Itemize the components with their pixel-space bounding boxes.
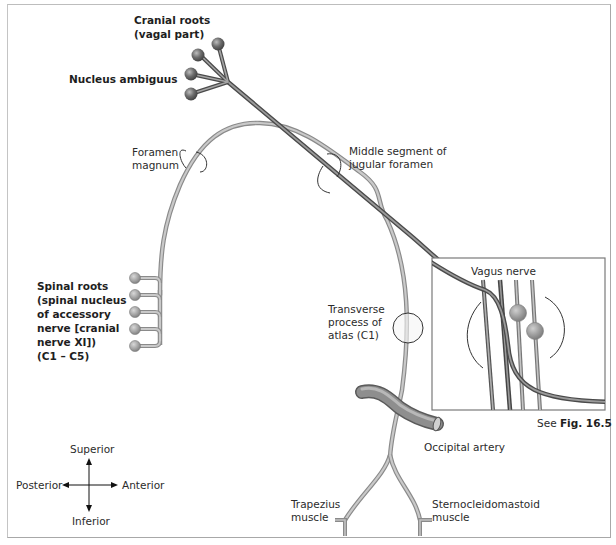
spinal-root-ball [130, 273, 141, 284]
arrow-up-icon [86, 458, 92, 465]
nucleus-ambiguus-cell [192, 49, 205, 62]
inferior-label: Inferior [72, 515, 111, 527]
anterior-label: Anterior [122, 479, 165, 491]
transverse-process-label: Transverse process of atlas (C1) [327, 303, 388, 341]
arrow-left-icon [62, 482, 69, 488]
sternocleidomastoid-label: Sternocleidomastoid muscle [432, 498, 543, 523]
spinal-root-ball [130, 324, 141, 335]
transverse-process-circle [393, 313, 423, 343]
vagus-nerve-inset [420, 255, 610, 410]
arrow-right-icon [111, 482, 118, 488]
orientation-compass [62, 458, 118, 512]
nucleus-ambiguus-label: Nucleus ambiguus [69, 73, 177, 85]
vagus-ganglion [510, 305, 527, 322]
spinal-root-ball [130, 307, 141, 318]
spinal-roots-label: Spinal roots (spinal nucleus of accessor… [37, 280, 130, 362]
occipital-artery-label: Occipital artery [424, 441, 505, 453]
accessory-nerve-diagram: Cranial roots (vagal part) Nucleus ambig… [0, 0, 616, 545]
foramen-magnum-label: Foramen magnum [132, 146, 182, 171]
arrow-down-icon [86, 505, 92, 512]
jugular-foramen-label: Middle segment of jugular foramen [348, 145, 450, 170]
nucleus-ambiguus-cell [185, 68, 198, 81]
vagus-ganglion [527, 323, 544, 340]
spinal-root-ball [130, 290, 141, 301]
posterior-label: Posterior [16, 479, 63, 491]
superior-label: Superior [70, 443, 115, 455]
nucleus-ambiguus-cell [212, 38, 225, 51]
see-figure-reference: See Fig. 16.5 [537, 417, 612, 429]
nucleus-ambiguus-cell [185, 88, 198, 101]
trapezius-nerve-ending [335, 520, 345, 536]
cranial-roots-label: Cranial roots (vagal part) [134, 14, 214, 40]
vagus-nerve-label: Vagus nerve [471, 265, 536, 277]
spinal-root-ball [130, 341, 141, 352]
spinal-roots [130, 273, 161, 352]
sternocleidomastoid-nerve-ending [420, 520, 432, 536]
